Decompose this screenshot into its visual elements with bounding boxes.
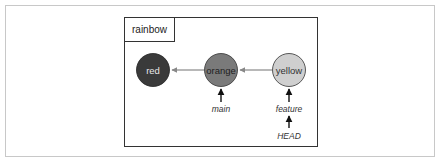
commit-orange: orange (205, 54, 238, 87)
commit-red: red (137, 54, 170, 87)
commit-graph: red orange yellow main feature HEAD (0, 0, 439, 162)
commit-red-label: red (146, 65, 160, 76)
ref-main-label: main (212, 104, 231, 114)
commit-yellow: yellow (273, 54, 306, 87)
commit-orange-label: orange (206, 65, 236, 76)
ref-head-label: HEAD (277, 131, 301, 141)
commit-yellow-label: yellow (276, 65, 303, 76)
ref-feature-label: feature (276, 104, 303, 114)
